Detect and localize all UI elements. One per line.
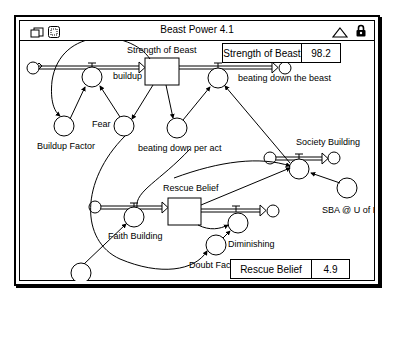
converter-beating-down-per-act[interactable]: beating down per act bbox=[138, 118, 222, 153]
stock-flow-diagram: Strength of Beast buildup bbox=[20, 41, 374, 281]
cloud-icon bbox=[27, 62, 39, 74]
converter-label: beating down per act bbox=[138, 143, 222, 153]
stock-label: Rescue Belief bbox=[163, 183, 219, 193]
display-value: 98.2 bbox=[302, 44, 340, 62]
numeric-display-rescue-belief[interactable]: Rescue Belief 4.9 bbox=[230, 259, 350, 279]
converter-label: SBA @ U of RB bbox=[322, 205, 374, 215]
flow-buildup[interactable]: buildup bbox=[27, 62, 145, 87]
display-label: Rescue Belief bbox=[231, 260, 312, 278]
display-label: Strength of Beast bbox=[223, 44, 302, 62]
numeric-display-strength-of-beast[interactable]: Strength of Beast 98.2 bbox=[222, 43, 341, 63]
window-title: Beast Power 4.1 bbox=[20, 24, 374, 35]
converter-label: Fear bbox=[92, 119, 111, 129]
window-frame: Beast Power 4.1 Strength of Beast bbox=[19, 20, 375, 281]
converter-label: Buildup Factor bbox=[37, 141, 95, 151]
flow-label: Society Building bbox=[296, 137, 360, 147]
model-window: Beast Power 4.1 Strength of Beast bbox=[14, 15, 380, 286]
title-bar[interactable]: Beast Power 4.1 bbox=[20, 21, 374, 41]
cloud-icon bbox=[267, 205, 279, 217]
stock-rescue-belief[interactable]: Rescue Belief bbox=[163, 183, 219, 225]
flow-label: Diminishing bbox=[228, 239, 275, 249]
flow-label: buildup bbox=[113, 71, 142, 81]
flow-faith-building[interactable]: Faith Building bbox=[89, 201, 168, 241]
converter-buildup-factor[interactable]: Buildup Factor bbox=[37, 116, 95, 151]
converter-sba-u-of-rb[interactable]: SBA @ U of RB bbox=[322, 178, 374, 215]
model-canvas[interactable]: Strength of Beast buildup bbox=[20, 41, 374, 280]
flow-beating-down-the-beast[interactable]: beating down the beast bbox=[179, 62, 332, 88]
lock-icon[interactable] bbox=[356, 23, 366, 36]
converter-fear[interactable]: Fear bbox=[92, 116, 134, 136]
flow-label: Faith Building bbox=[108, 231, 163, 241]
flow-label: beating down the beast bbox=[238, 73, 332, 83]
display-value: 4.9 bbox=[312, 260, 349, 278]
converter-memory-of-home[interactable]: Memory of home bbox=[50, 263, 118, 281]
up-triangle-icon[interactable] bbox=[332, 24, 348, 35]
cloud-icon bbox=[328, 152, 340, 164]
